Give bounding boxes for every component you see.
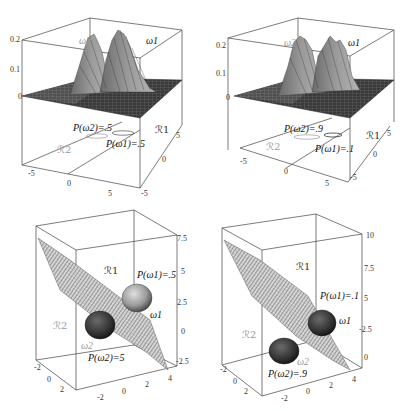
region-label-r2: ℛ2 bbox=[57, 145, 71, 155]
y-tick: -5 bbox=[350, 174, 357, 182]
prior-omega2: P(ω2)=5 bbox=[88, 353, 125, 363]
region-label-r1: ℛ1 bbox=[366, 131, 380, 141]
z-tick: 0 bbox=[364, 354, 368, 362]
decision-contour-omega2 bbox=[294, 135, 320, 139]
omega1-sphere bbox=[122, 284, 152, 312]
panel-bottom-right: 10 7.5 5 -2.5 0 -2 0 2 -2 0 2 4 ℛ1 ℛ2 P(… bbox=[200, 200, 400, 411]
x-tick: 0 bbox=[122, 388, 126, 396]
class-label-omega1: ω1 bbox=[339, 316, 351, 326]
x-tick: 5 bbox=[325, 180, 329, 188]
z-tick: -2.5 bbox=[176, 358, 189, 366]
prior-omega1: P(ω1)=.1 bbox=[320, 291, 359, 301]
z-tick: 0 bbox=[18, 93, 22, 101]
class-label-omega2: ω2 bbox=[79, 36, 91, 46]
z-tick: -2.5 bbox=[359, 326, 372, 334]
panel-bottom-left: 7.5 5 2.5 0 -2.5 -2 0 2 -2 0 2 4 ℛ1 ℛ2 P… bbox=[0, 200, 200, 411]
z-tick: 2.5 bbox=[177, 299, 187, 307]
class-label-omega2: ω2 bbox=[81, 341, 93, 351]
y-tick: -2 bbox=[220, 366, 227, 374]
decision-contour-omega1 bbox=[112, 131, 134, 135]
z-tick: 0.2 bbox=[10, 36, 20, 44]
region-label-r1: ℛ1 bbox=[155, 125, 169, 135]
class-label-omega2: ω2 bbox=[297, 357, 309, 367]
prior-omega1: P(ω1)=.1 bbox=[315, 144, 354, 154]
y-tick: 0 bbox=[233, 378, 237, 386]
z-tick: 5 bbox=[364, 295, 368, 303]
class-label-omega1: ω1 bbox=[146, 36, 158, 46]
y-tick: 0 bbox=[373, 151, 377, 159]
plot-3d-surface bbox=[200, 0, 400, 200]
x-tick: -5 bbox=[240, 158, 247, 166]
y-tick: 5 bbox=[387, 130, 391, 138]
region-label-r1: ℛ1 bbox=[296, 262, 310, 272]
y-tick: -2 bbox=[34, 364, 41, 372]
y-tick: -5 bbox=[141, 190, 148, 198]
omega2-sphere bbox=[269, 338, 299, 364]
z-tick: 0 bbox=[181, 328, 185, 336]
region-label-r1: ℛ1 bbox=[104, 266, 118, 276]
x-tick: 2 bbox=[145, 381, 149, 389]
x-tick: 2 bbox=[329, 382, 333, 390]
panel-top-left: 0.2 0.1 0 -5 0 5 5 0 -5 ω2 ω1 ℛ2 ℛ1 P(ω2… bbox=[0, 0, 200, 200]
x-tick: 5 bbox=[108, 190, 112, 198]
x-tick: 0 bbox=[67, 180, 71, 188]
y-tick: 2 bbox=[244, 388, 248, 396]
x-tick: 4 bbox=[352, 376, 356, 384]
region-label-r2: ℛ2 bbox=[242, 330, 256, 340]
z-tick: 10 bbox=[366, 232, 374, 240]
z-tick: 0.2 bbox=[216, 42, 226, 50]
class-label-omega1: ω1 bbox=[150, 310, 162, 320]
x-tick: 0 bbox=[306, 388, 310, 396]
panel-top-right: 0.2 0.1 0 -5 0 5 5 0 -5 ω2 ω1 ℛ2 ℛ1 P(ω2… bbox=[200, 0, 400, 200]
z-tick: 0 bbox=[226, 94, 230, 102]
z-tick: 7.5 bbox=[177, 235, 187, 243]
region-label-r2: ℛ2 bbox=[53, 321, 67, 331]
region-label-r2: ℛ2 bbox=[266, 142, 280, 152]
prior-omega1: P(ω1)=.5 bbox=[106, 139, 145, 149]
prior-omega1: P(ω1)=.5 bbox=[137, 270, 176, 280]
class-label-omega2: ω2 bbox=[284, 38, 296, 48]
y-tick: 5 bbox=[176, 132, 180, 140]
class-label-omega1: ω1 bbox=[348, 38, 360, 48]
z-tick: 0.1 bbox=[10, 66, 20, 74]
prior-omega2: P(ω2)=.9 bbox=[268, 369, 307, 379]
x-tick: 0 bbox=[284, 168, 288, 176]
omega2-sphere bbox=[85, 311, 115, 339]
x-tick: -2 bbox=[281, 395, 288, 403]
z-tick: 5 bbox=[181, 268, 185, 276]
prior-omega2: P(ω2)=.9 bbox=[284, 124, 323, 134]
y-tick: 0 bbox=[47, 376, 51, 384]
prior-omega2: P(ω2)=.5 bbox=[73, 123, 112, 133]
x-tick: 4 bbox=[168, 375, 172, 383]
x-tick: -2 bbox=[97, 394, 104, 402]
y-tick: 0 bbox=[162, 156, 166, 164]
z-tick: 0.1 bbox=[216, 70, 226, 78]
z-tick: 7.5 bbox=[364, 265, 374, 273]
y-tick: 2 bbox=[60, 386, 64, 394]
omega1-sphere bbox=[308, 310, 336, 336]
x-tick: -5 bbox=[28, 170, 35, 178]
